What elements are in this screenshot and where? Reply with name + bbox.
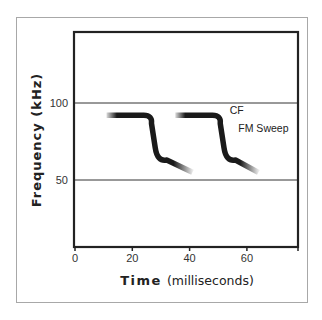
y-axis-ticks: 50100 [50,97,68,186]
x-tick-label: 40 [183,252,195,264]
x-tick-label: 60 [241,252,253,264]
y-axis-label: Frequency (kHz) [29,73,44,208]
y-tick-label: 50 [56,174,68,186]
y-tick-label: 100 [50,97,68,109]
x-axis-label: Time(milliseconds) [120,273,254,288]
x-axis-ticks: 0204060 [72,246,298,264]
chart: 0204060 50100 CFFM Sweep Frequency (kHz)… [0,0,322,320]
annotation-fm-sweep: FM Sweep [238,122,288,134]
plot-area [74,32,298,247]
x-tick-label: 20 [126,252,138,264]
x-tick-label: 0 [72,252,78,264]
x-axis-label-regular: (milliseconds) [167,273,254,288]
x-axis-label-bold: Time [120,273,162,288]
annotations: CFFM Sweep [230,104,289,134]
annotation-cf: CF [230,104,244,116]
series-group [107,115,259,172]
call-trace [107,115,193,172]
